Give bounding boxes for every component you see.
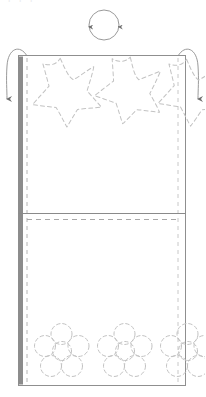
pattern-diagram-svg [0,0,205,397]
panel-spine [19,57,24,385]
pattern-diagram-canvas: f f f [0,0,205,397]
flower-petal [188,356,206,377]
rotate-indicator [89,10,119,40]
rotate-circle [89,10,119,40]
